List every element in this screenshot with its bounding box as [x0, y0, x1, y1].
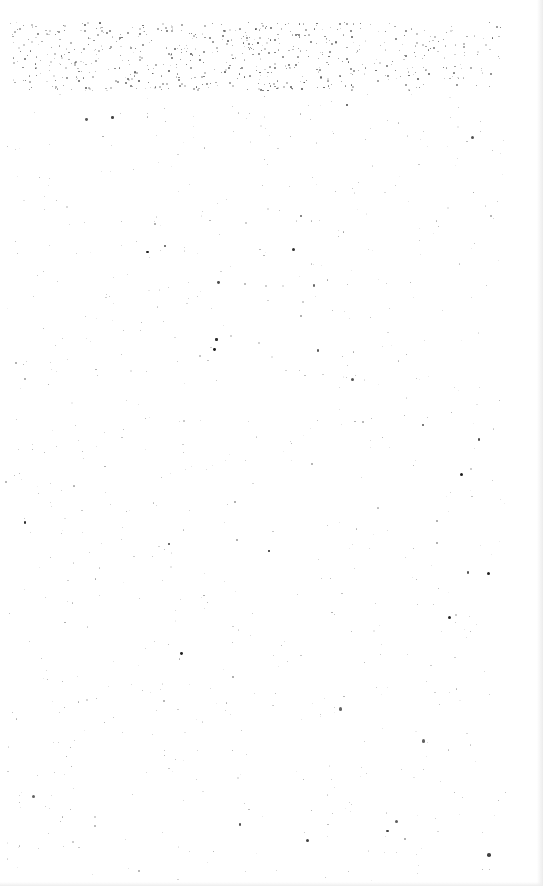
noise-speck	[413, 548, 414, 549]
noise-speck	[179, 658, 181, 660]
noise-speck	[443, 39, 444, 40]
noise-speck	[195, 34, 196, 35]
noise-speck	[487, 572, 490, 575]
noise-speck	[455, 165, 456, 166]
noise-speck	[196, 86, 198, 88]
noise-speck	[126, 400, 127, 401]
noise-speck	[110, 87, 112, 89]
noise-speck	[354, 421, 356, 423]
noise-speck	[171, 54, 172, 55]
noise-speck	[322, 374, 323, 375]
noise-speck	[364, 379, 366, 381]
noise-speck	[244, 283, 246, 285]
noise-speck	[428, 73, 430, 75]
noise-speck	[69, 224, 70, 225]
noise-speck	[500, 27, 501, 28]
noise-speck	[202, 791, 204, 793]
noise-speck	[39, 177, 40, 178]
noise-speck	[345, 85, 346, 86]
noise-speck	[259, 72, 261, 74]
noise-speck	[18, 449, 19, 450]
noise-speck	[410, 282, 411, 283]
noise-speck	[177, 48, 178, 49]
noise-speck	[277, 148, 279, 150]
noise-speck	[122, 732, 123, 733]
noise-speck	[452, 30, 453, 31]
noise-speck	[338, 230, 339, 231]
noise-speck	[86, 338, 87, 339]
noise-speck	[163, 64, 165, 66]
noise-speck	[262, 90, 264, 92]
noise-speck	[104, 466, 106, 468]
noise-speck	[119, 67, 120, 68]
noise-speck	[215, 82, 217, 84]
noise-speck	[115, 80, 117, 82]
noise-speck	[341, 593, 342, 594]
noise-speck	[106, 90, 108, 92]
noise-speck	[389, 447, 390, 448]
noise-speck	[463, 46, 465, 48]
noise-speck	[215, 338, 217, 340]
noise-speck	[384, 852, 386, 854]
noise-speck	[368, 249, 369, 250]
noise-speck	[490, 73, 492, 75]
noise-speck	[204, 37, 206, 39]
noise-speck	[132, 86, 133, 87]
noise-speck	[106, 32, 108, 34]
noise-speck	[378, 384, 379, 385]
noise-speck	[54, 53, 56, 55]
noise-speck	[504, 503, 505, 504]
noise-speck	[111, 116, 114, 119]
noise-speck	[261, 50, 262, 51]
noise-speck	[387, 332, 389, 334]
noise-speck	[165, 121, 166, 122]
noise-speck	[120, 55, 122, 57]
noise-speck	[430, 665, 432, 667]
noise-speck	[343, 231, 344, 232]
noise-speck	[90, 252, 91, 253]
noise-speck	[312, 177, 313, 178]
noise-speck	[436, 520, 438, 522]
noise-speck	[148, 290, 150, 292]
noise-speck	[142, 25, 143, 26]
noise-speck	[195, 48, 197, 50]
noise-speck	[20, 388, 21, 389]
noise-speck	[320, 52, 321, 53]
noise-speck	[212, 23, 213, 24]
noise-speck	[193, 137, 194, 138]
noise-speck	[412, 67, 413, 68]
noise-speck	[162, 832, 163, 833]
noise-speck	[157, 306, 158, 307]
noise-speck	[190, 53, 192, 55]
noise-speck	[50, 61, 52, 63]
noise-speck	[224, 581, 225, 582]
noise-speck	[489, 22, 490, 23]
noise-speck	[416, 87, 417, 88]
noise-speck	[207, 360, 208, 361]
noise-speck	[147, 98, 148, 99]
noise-speck	[227, 504, 228, 505]
noise-speck	[455, 622, 456, 623]
noise-speck	[96, 54, 97, 55]
noise-speck	[16, 419, 17, 420]
noise-speck	[147, 113, 148, 114]
noise-speck	[241, 67, 243, 69]
noise-speck	[200, 291, 201, 292]
noise-speck	[133, 556, 135, 558]
noise-speck	[385, 836, 386, 837]
noise-speck	[492, 150, 493, 151]
noise-speck	[104, 722, 105, 723]
noise-speck	[146, 251, 148, 253]
noise-speck	[110, 171, 111, 172]
noise-speck	[77, 68, 79, 70]
noise-speck	[417, 78, 418, 79]
noise-speck	[166, 83, 168, 85]
noise-speck	[156, 505, 157, 506]
noise-speck	[23, 200, 25, 202]
noise-speck	[21, 792, 22, 793]
noise-speck	[340, 76, 341, 77]
noise-speck	[192, 38, 193, 39]
noise-speck	[254, 39, 256, 41]
noise-speck	[408, 71, 410, 73]
noise-speck	[448, 749, 449, 750]
